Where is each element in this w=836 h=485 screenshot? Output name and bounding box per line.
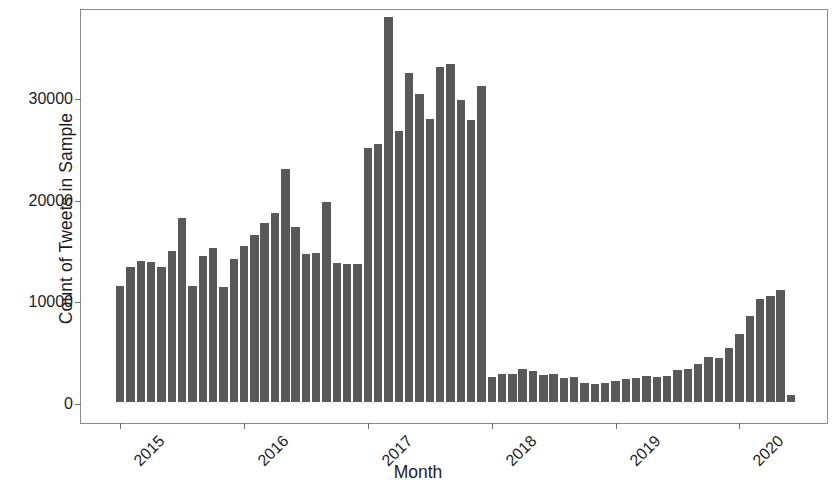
bar bbox=[787, 395, 795, 402]
bar bbox=[436, 67, 444, 402]
bar bbox=[188, 286, 196, 402]
bar bbox=[260, 223, 268, 402]
bar bbox=[663, 376, 671, 402]
y-tick-label: 0 bbox=[64, 395, 73, 413]
y-tick-mark bbox=[75, 404, 81, 405]
bar-chart-figure: Count of Tweets in Sample 01000020000300… bbox=[0, 0, 836, 485]
bar bbox=[457, 100, 465, 402]
bar bbox=[477, 86, 485, 402]
bar bbox=[395, 131, 403, 402]
bar bbox=[374, 144, 382, 402]
bar bbox=[271, 213, 279, 402]
bar bbox=[570, 377, 578, 402]
bar bbox=[116, 286, 124, 402]
bar bbox=[312, 253, 320, 402]
bar bbox=[529, 371, 537, 402]
x-tick-mark bbox=[492, 423, 493, 429]
bar bbox=[518, 369, 526, 403]
y-tick-label: 30000 bbox=[29, 90, 74, 108]
bar bbox=[673, 370, 681, 402]
bar bbox=[653, 377, 661, 402]
bar bbox=[157, 267, 165, 402]
x-tick-mark bbox=[616, 423, 617, 429]
bar bbox=[291, 227, 299, 402]
bar bbox=[333, 263, 341, 402]
bar bbox=[137, 261, 145, 402]
bar bbox=[539, 375, 547, 402]
bar bbox=[560, 378, 568, 402]
bar bbox=[126, 267, 134, 402]
y-tick-label: 20000 bbox=[29, 192, 74, 210]
bar bbox=[219, 287, 227, 402]
bar bbox=[622, 379, 630, 402]
bar bbox=[199, 256, 207, 402]
bar bbox=[322, 202, 330, 402]
bar bbox=[694, 364, 702, 402]
bar bbox=[240, 246, 248, 402]
bar bbox=[601, 383, 609, 402]
bar bbox=[766, 296, 774, 402]
bar bbox=[250, 235, 258, 402]
bar bbox=[632, 378, 640, 402]
y-tick-mark bbox=[75, 99, 81, 100]
bar bbox=[715, 358, 723, 402]
bar bbox=[302, 254, 310, 402]
bar bbox=[426, 119, 434, 402]
bar bbox=[446, 64, 454, 402]
bar bbox=[488, 377, 496, 402]
bar bbox=[508, 374, 516, 402]
bar bbox=[746, 316, 754, 402]
x-axis-title: Month bbox=[0, 462, 836, 483]
bar bbox=[209, 248, 217, 402]
y-tick-mark bbox=[75, 201, 81, 202]
bar bbox=[415, 94, 423, 402]
bar bbox=[704, 357, 712, 402]
bar bbox=[684, 369, 692, 403]
bar bbox=[467, 120, 475, 402]
bar bbox=[168, 251, 176, 402]
bar bbox=[353, 264, 361, 402]
bar bbox=[281, 169, 289, 402]
bar bbox=[591, 384, 599, 402]
bar bbox=[230, 259, 238, 402]
bar bbox=[405, 73, 413, 402]
bar bbox=[735, 334, 743, 402]
x-tick-mark bbox=[244, 423, 245, 429]
bar bbox=[611, 381, 619, 402]
y-tick-label: 10000 bbox=[29, 293, 74, 311]
bar bbox=[725, 348, 733, 402]
bar bbox=[364, 148, 372, 402]
x-tick-mark bbox=[120, 423, 121, 429]
bar bbox=[776, 290, 784, 402]
bar bbox=[178, 218, 186, 402]
bar bbox=[549, 374, 557, 402]
x-tick-mark bbox=[739, 423, 740, 429]
x-tick-mark bbox=[368, 423, 369, 429]
bar bbox=[498, 374, 506, 402]
bar bbox=[756, 299, 764, 402]
y-tick-mark bbox=[75, 302, 81, 303]
plot-panel: 0100002000030000 20152016201720182019202… bbox=[80, 9, 828, 424]
bar bbox=[580, 383, 588, 402]
bar bbox=[147, 262, 155, 402]
bar bbox=[384, 17, 392, 402]
bar bbox=[343, 264, 351, 402]
bar bbox=[642, 376, 650, 402]
plot-area bbox=[81, 10, 827, 423]
